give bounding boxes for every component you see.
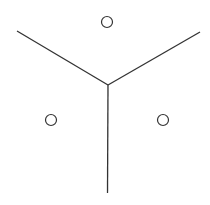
site-left	[46, 115, 57, 126]
voronoi-diagram	[0, 0, 210, 205]
edge-upper-right	[108, 32, 200, 85]
site-top	[102, 17, 113, 28]
site-right	[158, 115, 169, 126]
edge-upper-left	[17, 31, 108, 85]
edge-bottom	[108, 85, 109, 193]
